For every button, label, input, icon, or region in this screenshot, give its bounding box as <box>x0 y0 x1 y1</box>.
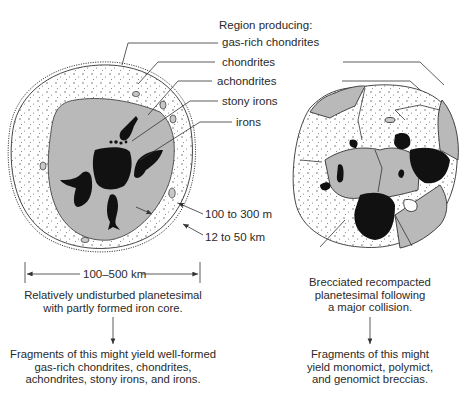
left-caption: Relatively undisturbed planetesimal with… <box>10 289 216 314</box>
right-caption-line: planetesimal following <box>300 289 440 302</box>
left-caption-line: with partly formed iron core. <box>10 302 216 315</box>
label-achondrites: achondrites <box>217 75 276 88</box>
right-result: Fragments of this might yield monomict, … <box>300 348 440 386</box>
label-stony-irons: stony irons <box>222 95 278 108</box>
left-planetesimal <box>8 62 195 252</box>
label-irons: irons <box>236 116 261 129</box>
right-planetesimal <box>293 85 458 248</box>
label-chondrites: chondrites <box>222 56 275 69</box>
right-result-line: and genomict breccias. <box>300 373 440 386</box>
left-caption-line: Relatively undisturbed planetesimal <box>10 289 216 302</box>
label-gas-rich-chondrites: gas-rich chondrites <box>222 36 319 49</box>
left-result-line: Fragments of this might yield well-forme… <box>0 348 226 361</box>
label-thickness-outer: 12 to 50 km <box>205 231 265 244</box>
label-diameter: 100–500 km <box>83 268 146 281</box>
right-caption-line: a major collision. <box>300 301 440 314</box>
right-caption: Brecciated recompacted planetesimal foll… <box>300 276 440 314</box>
right-caption-line: Brecciated recompacted <box>300 276 440 289</box>
left-result-line: gas-rich chondrites, chondrites, <box>0 361 226 374</box>
left-result: Fragments of this might yield well-forme… <box>0 348 226 386</box>
left-result-line: achondrites, stony irons, and irons. <box>0 373 226 386</box>
right-result-line: yield monomict, polymict, <box>300 361 440 374</box>
right-result-line: Fragments of this might <box>300 348 440 361</box>
label-thickness-inner: 100 to 300 m <box>205 208 272 221</box>
label-region-producing: Region producing: <box>219 19 312 32</box>
